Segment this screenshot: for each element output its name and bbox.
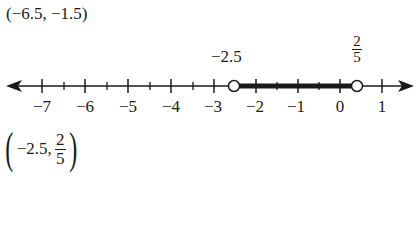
tick-label: −4: [162, 97, 180, 117]
open-paren: (: [5, 127, 13, 171]
interval-b-text: ( −2.5, 2 5 ): [2, 125, 80, 173]
interval-b-left: −2.5,: [17, 139, 52, 159]
tick-label: −6: [76, 97, 94, 117]
tick-label: −5: [119, 97, 137, 117]
tick-label: 0: [336, 97, 345, 117]
close-paren: ): [69, 127, 77, 171]
tick-label: 1: [378, 97, 387, 117]
tick-label: −2: [246, 97, 264, 117]
tick-label: −1: [287, 97, 305, 117]
open-circle-right-icon: [352, 81, 363, 92]
fraction-numerator: 2: [56, 132, 65, 148]
fraction-denominator: 5: [56, 151, 65, 167]
interval-b-right-fraction: 2 5: [55, 132, 66, 167]
tick-label: −7: [33, 97, 51, 117]
open-circle-left-icon: [229, 81, 240, 92]
tick-label: −3: [204, 97, 222, 117]
